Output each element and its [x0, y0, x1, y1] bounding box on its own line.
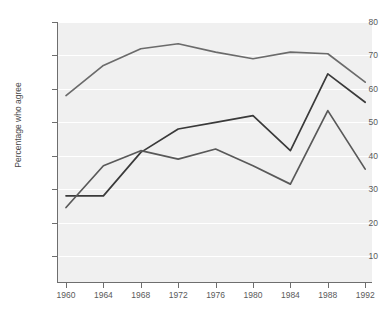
x-axis-tick	[290, 283, 291, 288]
gridline	[58, 22, 372, 23]
gridline	[58, 89, 372, 90]
x-axis-tick-label: 1984	[270, 291, 310, 300]
y-axis-label: Percentage who agree	[13, 60, 23, 190]
y-axis-tick-label: 40	[332, 152, 378, 160]
x-axis-tick	[365, 283, 366, 288]
y-axis-tick-label: 60	[332, 85, 378, 93]
y-axis-tick	[52, 22, 57, 23]
y-axis-tick-label: 20	[332, 219, 378, 227]
gridline	[58, 122, 372, 123]
x-axis-tick-label: 1964	[83, 291, 123, 300]
y-axis-tick-label: 80	[332, 18, 378, 26]
gridline	[58, 156, 372, 157]
y-axis-tick-label: 70	[332, 51, 378, 59]
y-axis-tick-label: 30	[332, 185, 378, 193]
x-axis-tick-label: 1968	[121, 291, 161, 300]
gridline	[58, 256, 372, 257]
y-axis-tick	[52, 122, 57, 123]
gridline	[58, 223, 372, 224]
y-axis-line	[57, 22, 58, 283]
gridline	[58, 189, 372, 190]
plot-area	[58, 22, 372, 282]
y-axis-tick-label: 50	[332, 118, 378, 126]
x-axis-tick	[178, 283, 179, 288]
y-axis-tick	[52, 189, 57, 190]
x-axis-tick-label: 1976	[196, 291, 236, 300]
y-axis-tick	[52, 156, 57, 157]
x-axis-tick-label: 1972	[158, 291, 198, 300]
x-axis-tick	[253, 283, 254, 288]
y-axis-tick-label: 10	[332, 252, 378, 260]
x-axis-tick	[216, 283, 217, 288]
y-axis-tick	[52, 223, 57, 224]
gridline	[58, 55, 372, 56]
x-axis-tick	[141, 283, 142, 288]
x-axis-tick-label: 1960	[46, 291, 86, 300]
x-axis-tick-label: 1992	[345, 291, 383, 300]
y-axis-tick	[52, 256, 57, 257]
x-axis-tick-label: 1988	[308, 291, 348, 300]
x-axis-tick	[66, 283, 67, 288]
chart-title	[0, 0, 378, 2]
y-axis-tick	[52, 55, 57, 56]
x-axis-tick-label: 1980	[233, 291, 273, 300]
x-axis-tick	[103, 283, 104, 288]
x-axis-tick	[328, 283, 329, 288]
y-axis-tick	[52, 89, 57, 90]
